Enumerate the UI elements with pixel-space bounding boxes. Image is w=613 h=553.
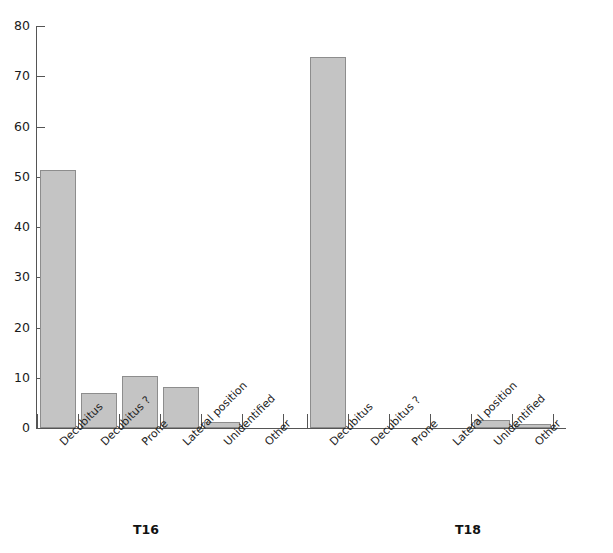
y-axis-tick-label: 80 xyxy=(4,20,30,33)
y-axis-tick-label: 30 xyxy=(4,271,30,284)
y-axis-tick-label: 10 xyxy=(4,372,30,385)
y-axis-tick-label: 70 xyxy=(4,70,30,83)
bar xyxy=(40,170,76,428)
x-axis-category-label: Other xyxy=(533,418,563,448)
bar-chart: 01020304050607080 DecubitusDecubitus ?Pr… xyxy=(0,0,613,553)
y-axis-tick-label: 40 xyxy=(4,221,30,234)
y-axis-tick-label: 20 xyxy=(4,322,30,335)
bar xyxy=(310,57,346,428)
bar xyxy=(163,387,199,428)
y-axis-tick-label: 60 xyxy=(4,121,30,134)
x-axis-category-label: Other xyxy=(263,418,293,448)
y-axis-tick xyxy=(36,26,45,27)
x-axis-tick xyxy=(307,414,308,428)
group-label-t18: T18 xyxy=(455,524,481,537)
x-axis-category-label: Prone xyxy=(410,418,440,448)
y-axis-tick xyxy=(36,76,45,77)
y-axis-tick-label: 0 xyxy=(4,422,30,435)
y-axis-tick-label: 50 xyxy=(4,171,30,184)
y-axis-tick xyxy=(36,127,45,128)
x-axis-tick xyxy=(37,414,38,428)
group-label-t16: T16 xyxy=(133,524,159,537)
